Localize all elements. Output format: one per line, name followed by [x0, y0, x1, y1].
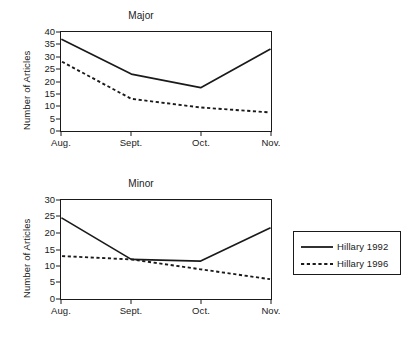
- legend-label-hillary-1992: Hillary 1992: [334, 241, 388, 252]
- x-tick-mark-minor-0: [61, 299, 62, 304]
- y-tick-label-minor-5: 25: [44, 211, 61, 221]
- x-tick-label-major-1: Sept.: [120, 137, 143, 148]
- chart-legend: Hillary 1992 Hillary 1996: [293, 231, 401, 275]
- x-tick-label-minor-0: Aug.: [51, 305, 71, 316]
- series-lines-major: [61, 32, 271, 131]
- x-tick-label-minor-3: Nov.: [261, 305, 280, 316]
- x-tick-label-major-3: Nov.: [261, 137, 280, 148]
- y-tick-label-major-4: 20: [44, 77, 61, 87]
- legend-swatch-solid-line-icon: [300, 242, 334, 252]
- x-tick-label-major-2: Oct.: [192, 137, 210, 148]
- y-tick-label-minor-1: 5: [50, 277, 61, 287]
- y-tick-label-minor-4: 20: [44, 228, 61, 238]
- y-tick-label-major-0: 0: [50, 126, 61, 136]
- legend-label-hillary-1996: Hillary 1996: [334, 258, 388, 269]
- y-tick-label-major-5: 25: [44, 64, 61, 74]
- x-tick-mark-major-2: [200, 131, 201, 136]
- chart-title-major: Major: [0, 10, 282, 22]
- y-tick-label-major-8: 40: [44, 27, 61, 37]
- x-tick-mark-minor-2: [200, 299, 201, 304]
- y-tick-label-minor-3: 15: [44, 245, 61, 255]
- y-tick-label-major-6: 30: [44, 52, 61, 62]
- series-line-hillary-1996-major: [62, 62, 270, 113]
- figure-two-line-charts: Major Number of Articles 0 5 10 15 20: [0, 0, 411, 343]
- y-axis-label-minor: Number of Articles: [22, 219, 32, 298]
- plot-area-major: 0 5 10 15 20 25 30 35 40 Aug. Sept. Oct.…: [60, 31, 272, 132]
- y-tick-label-major-1: 5: [50, 114, 61, 124]
- x-tick-mark-major-1: [130, 131, 131, 136]
- x-tick-label-minor-1: Sept.: [120, 305, 143, 316]
- y-tick-label-minor-0: 0: [50, 294, 61, 304]
- x-tick-mark-major-0: [61, 131, 62, 136]
- legend-item-hillary-1992: Hillary 1992: [300, 238, 393, 255]
- y-tick-label-major-2: 10: [44, 101, 61, 111]
- series-line-hillary-1992-minor: [62, 218, 270, 261]
- plot-area-minor: 0 5 10 15 20 25 30 Aug. Sept. Oct. Nov.: [60, 199, 272, 300]
- y-tick-label-major-3: 15: [44, 89, 61, 99]
- y-axis-label-major: Number of Articles: [22, 51, 32, 130]
- x-tick-mark-minor-3: [271, 299, 272, 304]
- x-tick-mark-minor-1: [130, 299, 131, 304]
- legend-item-hillary-1996: Hillary 1996: [300, 255, 393, 272]
- y-tick-label-major-7: 35: [44, 39, 61, 49]
- x-tick-label-major-0: Aug.: [51, 137, 71, 148]
- legend-swatch-dotted-line-icon: [300, 259, 334, 269]
- chart-panel-major: Major Number of Articles 0 5 10 15 20: [0, 8, 285, 166]
- y-tick-label-minor-2: 10: [44, 261, 61, 271]
- chart-panel-minor: Minor Number of Articles 0 5 10 15 20 25…: [0, 176, 285, 336]
- series-line-hillary-1992-major: [62, 39, 270, 87]
- x-tick-mark-major-3: [271, 131, 272, 136]
- chart-title-minor: Minor: [0, 178, 282, 190]
- y-tick-label-minor-6: 30: [44, 195, 61, 205]
- x-tick-label-minor-2: Oct.: [192, 305, 210, 316]
- series-lines-minor: [61, 200, 271, 299]
